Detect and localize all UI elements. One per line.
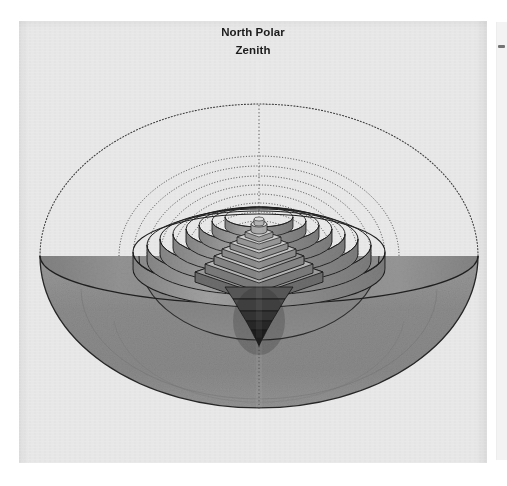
- scan-fold-highlight: [256, 61, 262, 461]
- sliver-ink-mark: [498, 45, 505, 48]
- page-gutter: [487, 0, 496, 486]
- north-polar-zenith-figure: [19, 21, 487, 463]
- book-page-left: North Polar Zenith: [19, 21, 487, 463]
- book-page-right-sliver: [496, 22, 507, 460]
